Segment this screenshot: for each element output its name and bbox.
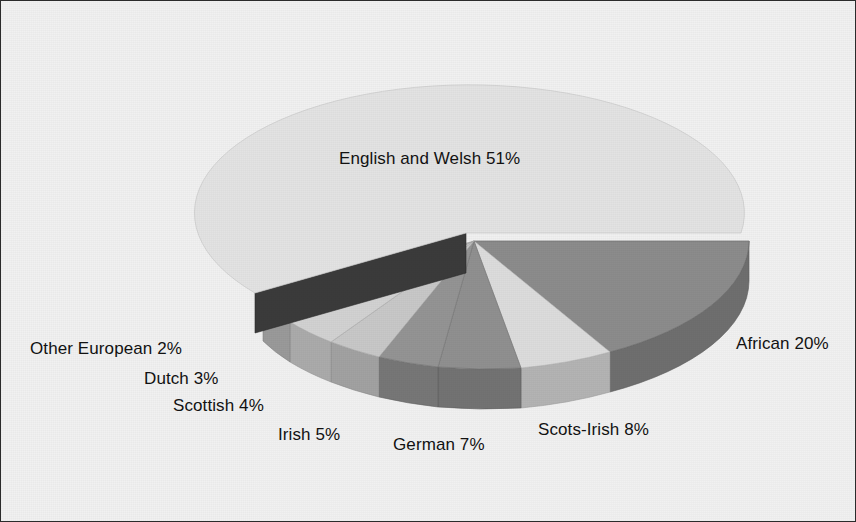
label-african: African 20%: [736, 334, 829, 354]
label-english-and-welsh: English and Welsh 51%: [339, 149, 520, 169]
label-dutch: Dutch 3%: [144, 369, 219, 389]
slice-side-german: [438, 367, 521, 409]
label-scots-irish: Scots-Irish 8%: [538, 420, 649, 440]
label-irish: Irish 5%: [278, 425, 340, 445]
pie-chart-figure: English and Welsh 51% African 20% Scots-…: [0, 0, 856, 522]
label-scottish: Scottish 4%: [173, 396, 264, 416]
label-german: German 7%: [393, 435, 485, 455]
label-other-european: Other European 2%: [30, 339, 182, 359]
